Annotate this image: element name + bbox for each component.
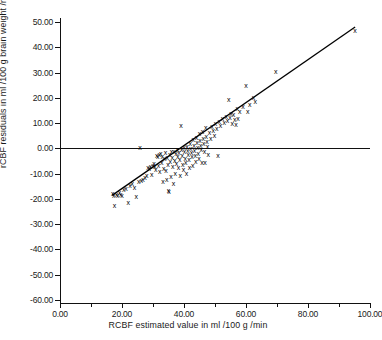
x-tick-minor (339, 303, 340, 307)
data-point: x (133, 184, 137, 191)
data-point: x (135, 193, 139, 200)
x-tick-label: 0.00 (52, 309, 68, 319)
y-tick (55, 174, 60, 175)
y-tick-label: 50.00 (33, 17, 53, 27)
y-tick-label: 30.00 (33, 68, 53, 78)
data-point: x (124, 184, 128, 191)
x-tick (122, 303, 123, 308)
data-point: x (227, 96, 231, 103)
data-point: x (179, 121, 183, 128)
y-tick (55, 249, 60, 250)
x-tick (370, 303, 371, 308)
data-point: x (216, 152, 220, 159)
y-tick (55, 22, 60, 23)
y-tick (55, 300, 60, 301)
y-tick (55, 148, 60, 149)
data-point: x (213, 132, 217, 139)
y-tick-label: 40.00 (33, 42, 53, 52)
y-tick (55, 199, 60, 200)
data-point: x (177, 164, 181, 171)
x-tick-label: 20.00 (112, 309, 132, 319)
x-tick (308, 303, 309, 308)
data-point: x (241, 103, 245, 110)
y-axis-title: rCBF residuals in ml /100 g brain weight… (0, 0, 8, 168)
x-tick-label: 40.00 (174, 309, 194, 319)
y-tick (55, 224, 60, 225)
data-point: x (248, 101, 252, 108)
data-point: x (138, 143, 142, 150)
data-point: x (179, 171, 183, 178)
data-point: x (254, 98, 258, 105)
y-tick (55, 98, 60, 99)
x-tick (246, 303, 247, 308)
data-point: x (150, 171, 154, 178)
regression-line (60, 22, 370, 300)
x-tick-minor (153, 303, 154, 307)
y-tick (55, 275, 60, 276)
y-tick-label: -10.00 (30, 169, 53, 179)
data-point: x (145, 172, 149, 179)
data-point: x (244, 82, 248, 89)
data-point: x (172, 179, 176, 186)
data-point: x (165, 176, 169, 183)
data-point: x (246, 107, 250, 114)
y-tick-label: -40.00 (30, 244, 53, 254)
y-tick (55, 73, 60, 74)
x-tick-label: 80.00 (298, 309, 318, 319)
y-tick-label: 0.00 (37, 143, 53, 153)
data-point: x (164, 167, 168, 174)
y-tick-label: -20.00 (30, 194, 53, 204)
x-tick (60, 303, 61, 308)
data-point: x (113, 201, 117, 208)
plot-area: xxxxxxxxxxxxxxxxxxxxxxxxxxxxxxxxxxxxxxxx… (60, 22, 370, 300)
x-tick-minor (215, 303, 216, 307)
x-tick-minor (91, 303, 92, 307)
x-tick-minor (277, 303, 278, 307)
data-point: x (120, 191, 124, 198)
y-tick-label: -60.00 (30, 295, 53, 305)
data-point: x (206, 143, 210, 150)
data-point: x (236, 115, 240, 122)
data-point: x (206, 150, 210, 157)
y-tick-label: -30.00 (30, 219, 53, 229)
data-point: x (234, 121, 238, 128)
y-tick-label: 10.00 (33, 118, 53, 128)
x-axis-title: RCBF estimated value in ml /100 g /min (0, 320, 376, 330)
x-tick-label: 100.00 (358, 309, 382, 319)
data-point: x (353, 26, 357, 33)
data-point: x (158, 168, 162, 175)
y-tick (55, 47, 60, 48)
y-tick-label: 20.00 (33, 93, 53, 103)
y-tick (55, 123, 60, 124)
x-tick (184, 303, 185, 308)
x-tick-label: 60.00 (236, 309, 256, 319)
data-point: x (185, 170, 189, 177)
data-point: x (274, 68, 278, 75)
data-point: x (203, 159, 207, 166)
data-point: x (167, 188, 171, 195)
data-point: x (126, 198, 130, 205)
y-tick-label: -50.00 (30, 270, 53, 280)
